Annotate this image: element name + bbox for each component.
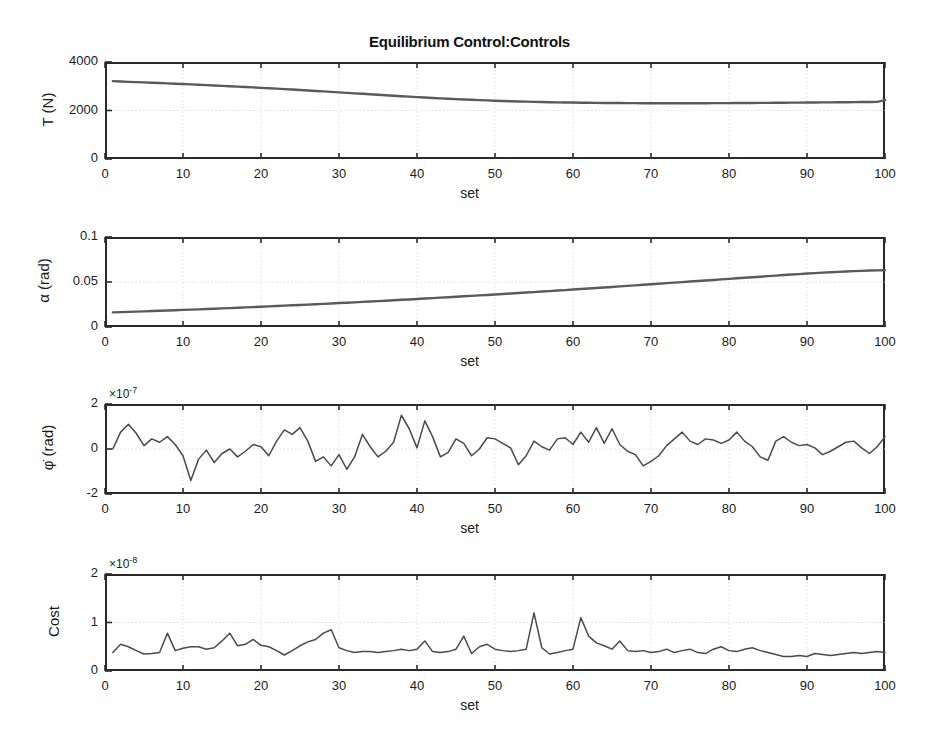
y-tick-label: 0 <box>28 318 98 333</box>
x-tick-label: 20 <box>236 166 286 181</box>
x-tick-label: 60 <box>548 501 598 516</box>
x-tick-label: 50 <box>470 501 520 516</box>
subplot-alpha: 00.050.10102030405060708090100α (rad)set <box>0 0 939 743</box>
y-tick-label: 0 <box>28 150 98 165</box>
data-series-alpha <box>113 270 885 312</box>
exponent-power: -8 <box>129 555 137 565</box>
x-tick-label: 50 <box>470 334 520 349</box>
x-tick-label: 80 <box>704 501 754 516</box>
y-tick-label: 4000 <box>28 53 98 68</box>
figure-canvas: Equilibrium Control:Controls 02000400001… <box>0 0 939 743</box>
y-tick-label: 1 <box>28 614 98 629</box>
x-tick-label: 60 <box>548 678 598 693</box>
x-tick-label: 80 <box>704 166 754 181</box>
x-tick-label: 100 <box>860 501 910 516</box>
x-tick-label: 40 <box>392 678 442 693</box>
y-tick-label: 0 <box>28 662 98 677</box>
subplot-thrust: 0200040000102030405060708090100T (N)set <box>0 0 939 743</box>
y-tick-label: 0.05 <box>28 273 98 288</box>
x-tick-label: 20 <box>236 678 286 693</box>
plot-area-cost <box>105 574 885 671</box>
axes-frame-phidot <box>105 404 885 494</box>
axes-frame-thrust <box>105 62 885 159</box>
x-tick-label: 90 <box>782 678 832 693</box>
x-tick-label: 10 <box>158 334 208 349</box>
y-tick-label: 0 <box>28 440 98 455</box>
x-tick-label: 70 <box>626 501 676 516</box>
y-axis-label-alpha: α (rad) <box>35 206 52 356</box>
y-axis-label-thrust: T (N) <box>39 34 56 184</box>
x-tick-label: 30 <box>314 678 364 693</box>
x-tick-label: 100 <box>860 166 910 181</box>
axes-frame-alpha <box>105 237 885 327</box>
subplot-phidot: -2020102030405060708090100×10-7φ̇ (rad)s… <box>0 0 939 743</box>
x-tick-label: 30 <box>314 334 364 349</box>
plot-area-thrust <box>105 62 885 159</box>
x-tick-label: 20 <box>236 501 286 516</box>
x-tick-label: 0 <box>80 501 130 516</box>
x-tick-label: 40 <box>392 501 442 516</box>
x-tick-label: 70 <box>626 166 676 181</box>
x-tick-label: 30 <box>314 501 364 516</box>
figure-title: Equilibrium Control:Controls <box>0 33 939 50</box>
x-axis-label-thrust: set <box>0 185 939 201</box>
exponent-power: -7 <box>129 385 137 395</box>
x-tick-label: 90 <box>782 166 832 181</box>
y-tick-label: -2 <box>28 485 98 500</box>
axes-frame-cost <box>105 574 885 671</box>
y-tick-label: 2 <box>28 565 98 580</box>
x-tick-label: 10 <box>158 678 208 693</box>
y-axis-label-cost: Cost <box>45 546 62 696</box>
x-tick-label: 0 <box>80 678 130 693</box>
x-tick-label: 90 <box>782 334 832 349</box>
y-axis-label-phidot: φ̇ (rad) <box>39 373 56 523</box>
x-tick-label: 40 <box>392 334 442 349</box>
x-tick-label: 30 <box>314 166 364 181</box>
x-tick-label: 10 <box>158 166 208 181</box>
x-axis-label-phidot: set <box>0 520 939 536</box>
x-axis-label-alpha: set <box>0 353 939 369</box>
x-tick-label: 70 <box>626 678 676 693</box>
data-series-thrust <box>113 81 885 103</box>
exponent-mantissa: ×10 <box>109 387 129 401</box>
data-series-cost <box>113 613 885 657</box>
data-series-phidot <box>113 415 885 480</box>
x-tick-label: 50 <box>470 166 520 181</box>
x-tick-label: 80 <box>704 334 754 349</box>
y-tick-label: 2 <box>28 395 98 410</box>
y-tick-label: 0.1 <box>28 228 98 243</box>
x-tick-label: 60 <box>548 334 598 349</box>
x-tick-label: 90 <box>782 501 832 516</box>
plot-area-alpha <box>105 237 885 327</box>
x-tick-label: 100 <box>860 334 910 349</box>
x-tick-label: 70 <box>626 334 676 349</box>
axis-exponent-cost: ×10-8 <box>109 555 137 571</box>
x-tick-label: 20 <box>236 334 286 349</box>
x-tick-label: 60 <box>548 166 598 181</box>
x-tick-label: 100 <box>860 678 910 693</box>
x-tick-label: 40 <box>392 166 442 181</box>
x-tick-label: 50 <box>470 678 520 693</box>
subplot-cost: 0120102030405060708090100×10-8Costset <box>0 0 939 743</box>
axis-exponent-phidot: ×10-7 <box>109 385 137 401</box>
x-tick-label: 80 <box>704 678 754 693</box>
exponent-mantissa: ×10 <box>109 557 129 571</box>
y-tick-label: 2000 <box>28 102 98 117</box>
x-tick-label: 0 <box>80 334 130 349</box>
plot-area-phidot <box>105 404 885 494</box>
x-tick-label: 0 <box>80 166 130 181</box>
x-tick-label: 10 <box>158 501 208 516</box>
x-axis-label-cost: set <box>0 697 939 713</box>
